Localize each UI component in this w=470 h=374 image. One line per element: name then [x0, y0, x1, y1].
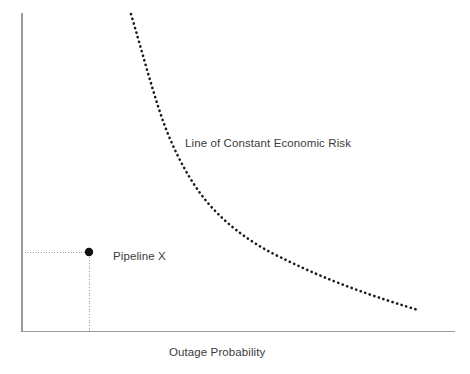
constant-economic-risk-curve	[131, 14, 418, 310]
pipeline-x-data-point	[85, 248, 93, 256]
curve-annotation-label: Line of Constant Economic Risk	[185, 137, 351, 150]
economic-risk-chart: Line of Constant Economic Risk Pipeline …	[0, 0, 470, 374]
plot-canvas	[0, 0, 470, 374]
x-axis-label: Outage Probability	[169, 346, 265, 359]
pipeline-x-label: Pipeline X	[113, 250, 166, 263]
